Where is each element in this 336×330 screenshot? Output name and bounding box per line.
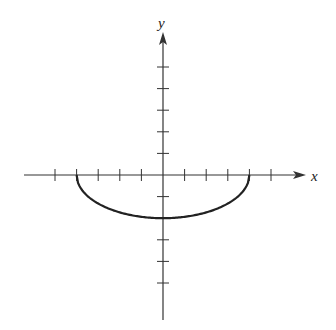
graph-plot: x y bbox=[0, 0, 336, 330]
y-axis-label: y bbox=[156, 15, 165, 31]
x-axis-label: x bbox=[310, 168, 318, 184]
axes bbox=[24, 32, 306, 320]
